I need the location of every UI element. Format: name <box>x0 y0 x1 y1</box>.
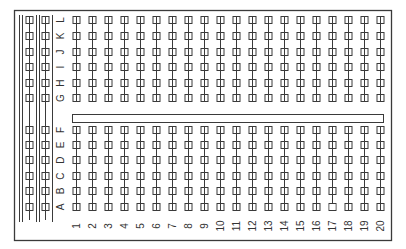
column-label-C: C <box>55 172 66 179</box>
column-label-B: B <box>55 187 66 194</box>
column-label-G: G <box>55 94 66 102</box>
column-label-K: K <box>55 32 66 39</box>
row-number-17: 17 <box>327 220 338 232</box>
breadboard-diagram: LKJIHG FEDCBA 12345678910111213141516171… <box>0 0 406 249</box>
row-number-7: 7 <box>167 223 178 229</box>
row-number-6: 6 <box>151 223 162 229</box>
column-label-L: L <box>55 17 66 23</box>
row-number-13: 13 <box>263 220 274 232</box>
row-number-9: 9 <box>199 223 210 229</box>
column-label-J: J <box>55 50 66 55</box>
row-number-2: 2 <box>87 223 98 229</box>
row-number-14: 14 <box>279 220 290 232</box>
row-number-15: 15 <box>295 220 306 232</box>
row-number-5: 5 <box>135 223 146 229</box>
column-label-A: A <box>55 203 66 210</box>
center-channel <box>73 115 384 123</box>
breadboard-svg: LKJIHG FEDCBA 12345678910111213141516171… <box>0 0 406 249</box>
column-label-D: D <box>55 156 66 163</box>
row-number-3: 3 <box>103 223 114 229</box>
column-label-F: F <box>55 127 66 133</box>
column-label-E: E <box>55 141 66 148</box>
row-number-20: 20 <box>375 220 386 232</box>
row-number-8: 8 <box>183 223 194 229</box>
row-number-18: 18 <box>343 220 354 232</box>
row-number-11: 11 <box>231 220 242 231</box>
row-number-16: 16 <box>311 220 322 232</box>
row-number-10: 10 <box>215 220 226 232</box>
column-label-H: H <box>55 79 66 86</box>
row-number-12: 12 <box>247 220 258 232</box>
column-label-I: I <box>55 66 66 69</box>
row-number-1: 1 <box>71 223 82 229</box>
row-number-19: 19 <box>359 220 370 232</box>
hole-blank <box>330 204 336 210</box>
row-number-4: 4 <box>119 223 130 229</box>
